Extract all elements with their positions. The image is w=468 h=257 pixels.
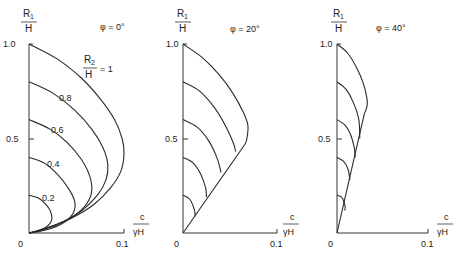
y-tick-1.0: 1.0 bbox=[166, 39, 179, 49]
phi-label: φ = 20° bbox=[230, 24, 260, 34]
curve-20.2 bbox=[183, 195, 195, 217]
svg-text:1: 1 bbox=[340, 13, 344, 20]
y-tick-1.0: 1.0 bbox=[3, 39, 16, 49]
curves bbox=[183, 44, 248, 233]
panel-phi-0: R 1 H 1.0 0.5 0 0.1 φ = 0° c γH R 2 H = … bbox=[3, 8, 149, 249]
svg-text:γH: γH bbox=[437, 227, 448, 237]
phi-label: φ = 0° bbox=[100, 22, 125, 32]
y-axis-label: R 1 H bbox=[175, 8, 191, 34]
curve-21 bbox=[337, 44, 367, 114]
curve-label-0.4: 0.4 bbox=[47, 159, 60, 169]
x-tick-0.1: 0.1 bbox=[116, 239, 129, 249]
curve-label-0.2: 0.2 bbox=[42, 193, 55, 203]
svg-text:c: c bbox=[290, 212, 295, 222]
svg-text:c: c bbox=[444, 212, 449, 222]
y-tick-1.0: 1.0 bbox=[320, 39, 333, 49]
svg-text:γH: γH bbox=[133, 227, 144, 237]
panel-phi-40: R 1 H 1.0 0.5 0 0.1 φ = 40° c γH bbox=[318, 8, 453, 249]
svg-text:1: 1 bbox=[184, 13, 188, 20]
x-origin: 0 bbox=[18, 239, 23, 249]
panel-phi-20: R 1 H 1.0 0.5 0 0.1 φ = 20° c γH bbox=[165, 8, 299, 249]
x-tick-0.1: 0.1 bbox=[270, 239, 283, 249]
x-origin: 0 bbox=[328, 239, 333, 249]
y-axis-label: R 1 H bbox=[331, 8, 347, 34]
curve-20.4 bbox=[337, 157, 350, 180]
phi-label: φ = 40° bbox=[376, 23, 406, 33]
x-axis-label: c γH bbox=[133, 212, 149, 237]
y-label-sub: 1 bbox=[30, 13, 34, 20]
axes bbox=[337, 44, 428, 233]
curve-20.6 bbox=[183, 120, 221, 173]
x-axis-label: c γH bbox=[283, 212, 299, 237]
y-tick-0.5: 0.5 bbox=[6, 134, 19, 144]
legend-r2-h: R 2 H = 1 bbox=[83, 54, 113, 80]
y-tick-0.5: 0.5 bbox=[318, 134, 331, 144]
axes bbox=[183, 44, 277, 233]
curve-20.6 bbox=[29, 120, 92, 233]
envelope-line bbox=[337, 114, 364, 233]
svg-text:H: H bbox=[85, 69, 92, 80]
svg-text:c: c bbox=[140, 212, 145, 222]
y-label-den: H bbox=[25, 23, 32, 34]
envelope-line bbox=[183, 144, 245, 233]
svg-text:= 1: = 1 bbox=[100, 64, 113, 74]
curve-21 bbox=[183, 44, 248, 144]
x-origin: 0 bbox=[174, 239, 179, 249]
curve-20.8 bbox=[29, 82, 108, 233]
svg-text:H: H bbox=[179, 23, 186, 34]
y-axis-label: R 1 H bbox=[21, 8, 37, 34]
svg-text:H: H bbox=[335, 23, 342, 34]
figure: R 1 H 1.0 0.5 0 0.1 φ = 0° c γH R 2 H = … bbox=[0, 0, 468, 257]
svg-text:γH: γH bbox=[283, 227, 294, 237]
curve-20.4 bbox=[183, 157, 207, 197]
y-tick-0.5: 0.5 bbox=[165, 134, 178, 144]
svg-text:2: 2 bbox=[91, 59, 95, 66]
x-axis-label: c γH bbox=[437, 212, 453, 237]
x-tick-0.1: 0.1 bbox=[421, 239, 434, 249]
